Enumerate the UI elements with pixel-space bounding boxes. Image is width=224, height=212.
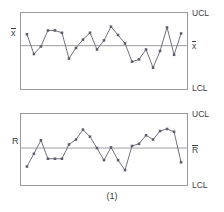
data-point <box>159 50 162 53</box>
data-point <box>173 54 176 57</box>
data-point <box>159 130 162 133</box>
r-chart: R UCL R LCL <box>0 104 224 190</box>
data-point <box>54 29 57 32</box>
data-point <box>40 139 43 142</box>
data-point <box>68 57 71 60</box>
data-point <box>61 157 64 160</box>
xbar-axis-label: x <box>11 28 16 38</box>
r-plot-area <box>20 113 188 186</box>
data-point <box>103 39 106 42</box>
data-point <box>103 159 106 162</box>
data-point <box>26 165 29 168</box>
data-point <box>96 147 99 150</box>
data-point <box>124 42 127 45</box>
data-point <box>40 45 43 48</box>
data-point <box>138 58 141 61</box>
xbar-chart: x UCL x LCL <box>0 0 224 104</box>
r-centerline-label: R <box>192 145 198 155</box>
data-point <box>82 38 85 41</box>
r-axis-label: R <box>12 137 19 146</box>
data-point <box>180 161 183 164</box>
xbar-ucl-label: UCL <box>192 9 209 18</box>
data-point <box>166 128 169 131</box>
data-point <box>54 157 57 160</box>
data-point <box>33 152 36 155</box>
r-plot-svg <box>21 114 187 185</box>
data-point <box>117 159 120 162</box>
xbar-plot-svg <box>21 13 187 89</box>
data-point <box>68 143 71 146</box>
r-data-markers <box>26 128 183 172</box>
data-point <box>61 31 64 34</box>
data-point <box>138 143 141 146</box>
r-ucl-label: UCL <box>192 110 209 119</box>
data-point <box>110 146 113 149</box>
data-point <box>82 128 85 131</box>
r-data-line <box>27 129 181 170</box>
xbar-centerline-label: x <box>192 41 196 51</box>
xbar-plot-area <box>20 12 188 90</box>
xbar-centerline-label-text: x <box>192 41 196 51</box>
data-point <box>47 29 50 32</box>
data-point <box>89 31 92 34</box>
data-point <box>26 33 29 36</box>
r-centerline-label-text: R <box>192 145 198 155</box>
data-point <box>180 32 183 35</box>
data-point <box>96 48 99 51</box>
data-point <box>131 60 134 63</box>
xbar-data-markers <box>26 25 183 69</box>
data-point <box>152 138 155 141</box>
r-lcl-label: LCL <box>192 181 208 190</box>
data-point <box>145 48 148 51</box>
data-point <box>110 25 113 28</box>
data-point <box>33 53 36 56</box>
data-point <box>89 135 92 138</box>
data-point <box>152 66 155 69</box>
data-point <box>173 130 176 133</box>
xbar-axis-label-text: x <box>11 28 16 38</box>
data-point <box>75 138 78 141</box>
data-point <box>145 134 148 137</box>
data-point <box>124 169 127 172</box>
data-point <box>47 157 50 160</box>
data-point <box>131 145 134 148</box>
data-point <box>117 34 120 37</box>
data-point <box>75 47 78 50</box>
data-point <box>166 26 169 29</box>
xbar-lcl-label: LCL <box>192 84 208 93</box>
figure-caption: (1) <box>0 192 224 201</box>
xbar-data-line <box>27 27 181 68</box>
control-chart-figure: x UCL x LCL R UCL <box>0 0 224 212</box>
